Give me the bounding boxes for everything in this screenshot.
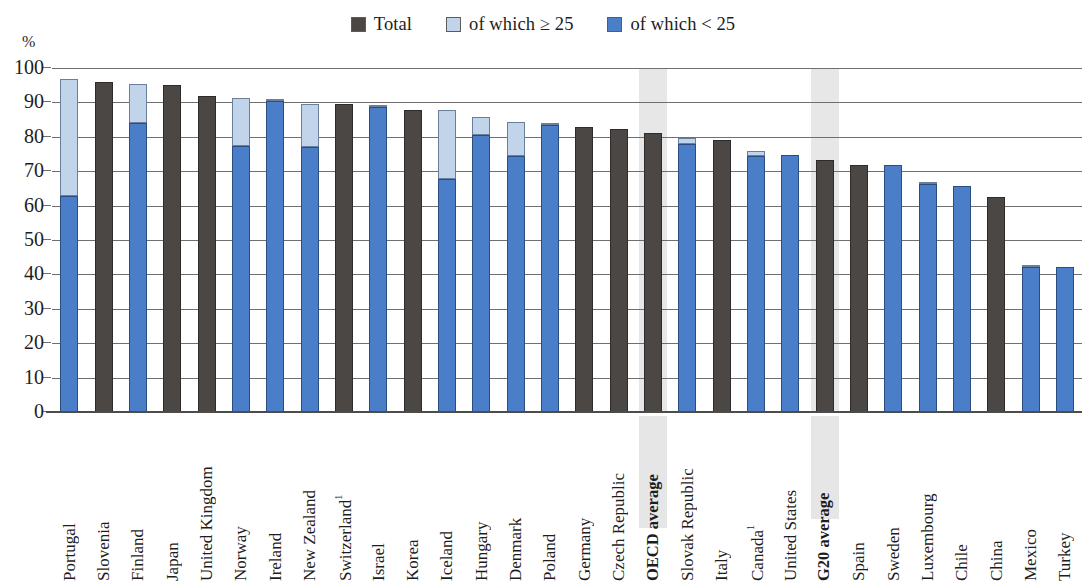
bar[interactable]: [610, 68, 628, 412]
bar[interactable]: [369, 68, 387, 412]
bar-segment-of-which-ge-25[interactable]: [678, 138, 696, 144]
bar[interactable]: [1022, 68, 1040, 412]
bar-segment-of-which-lt-25[interactable]: [129, 123, 147, 412]
x-axis-label-slot[interactable]: United States: [773, 416, 807, 584]
x-axis-label-slot[interactable]: Turkey: [1048, 416, 1082, 584]
bar-segment-total[interactable]: [713, 140, 731, 412]
bar-segment-of-which-lt-25[interactable]: [953, 186, 971, 412]
bar-segment-total[interactable]: [987, 197, 1005, 412]
x-axis-label-slot[interactable]: Japan: [155, 416, 189, 584]
legend-item-of-which-ge-25[interactable]: of which ≥ 25: [446, 14, 573, 35]
bar[interactable]: [404, 68, 422, 412]
bar-segment-of-which-ge-25[interactable]: [472, 117, 490, 136]
bar[interactable]: [919, 68, 937, 412]
bar-segment-of-which-lt-25[interactable]: [60, 196, 78, 412]
bar[interactable]: [1056, 68, 1074, 412]
bar[interactable]: [129, 68, 147, 412]
bar-segment-of-which-lt-25[interactable]: [301, 147, 319, 412]
x-axis-label-slot[interactable]: Slovenia: [86, 416, 120, 584]
x-axis-label-slot[interactable]: Slovak Republic: [670, 416, 704, 584]
bar-segment-of-which-ge-25[interactable]: [60, 79, 78, 196]
bar[interactable]: [850, 68, 868, 412]
bar-segment-of-which-lt-25[interactable]: [438, 179, 456, 412]
x-axis-label-slot[interactable]: Luxembourg: [910, 416, 944, 584]
bar[interactable]: [541, 68, 559, 412]
x-axis-label-slot[interactable]: Italy: [704, 416, 738, 584]
bar-segment-of-which-ge-25[interactable]: [507, 122, 525, 156]
bar-segment-total[interactable]: [198, 96, 216, 412]
bar-segment-total[interactable]: [163, 85, 181, 412]
bar-segment-of-which-lt-25[interactable]: [747, 156, 765, 412]
legend-item-total[interactable]: Total: [351, 14, 412, 35]
x-axis-label-slot[interactable]: Iceland: [430, 416, 464, 584]
bar[interactable]: [747, 68, 765, 412]
bar-segment-of-which-lt-25[interactable]: [678, 144, 696, 412]
x-axis-label-slot[interactable]: China: [979, 416, 1013, 584]
bar[interactable]: [266, 68, 284, 412]
bar-segment-of-which-ge-25[interactable]: [232, 98, 250, 146]
bar[interactable]: [678, 68, 696, 412]
x-axis-label-slot[interactable]: OECD average: [636, 416, 670, 584]
bar-segment-total[interactable]: [575, 127, 593, 412]
bar[interactable]: [301, 68, 319, 412]
x-axis-label-slot[interactable]: Canada1: [739, 416, 773, 584]
x-axis-label-slot[interactable]: Czech Republic: [601, 416, 635, 584]
x-axis-label-slot[interactable]: Portugal: [52, 416, 86, 584]
bar[interactable]: [335, 68, 353, 412]
bar[interactable]: [884, 68, 902, 412]
bar[interactable]: [507, 68, 525, 412]
x-axis-label-slot[interactable]: Denmark: [498, 416, 532, 584]
bar[interactable]: [644, 68, 662, 412]
x-axis-label-slot[interactable]: Spain: [842, 416, 876, 584]
x-axis-label-slot[interactable]: Switzerland1: [327, 416, 361, 584]
x-axis-label-slot[interactable]: Israel: [361, 416, 395, 584]
x-axis-label-slot[interactable]: Norway: [224, 416, 258, 584]
bar[interactable]: [575, 68, 593, 412]
x-axis-label-slot[interactable]: Poland: [533, 416, 567, 584]
bar-segment-of-which-lt-25[interactable]: [507, 156, 525, 412]
bar-segment-of-which-ge-25[interactable]: [541, 123, 559, 125]
x-axis-label-slot[interactable]: Finland: [121, 416, 155, 584]
bar-segment-of-which-lt-25[interactable]: [1022, 267, 1040, 413]
bar-segment-of-which-ge-25[interactable]: [369, 105, 387, 107]
bar-segment-of-which-ge-25[interactable]: [438, 110, 456, 179]
bar-segment-total[interactable]: [610, 129, 628, 412]
bar-segment-of-which-ge-25[interactable]: [919, 182, 937, 184]
bar[interactable]: [953, 68, 971, 412]
bar-segment-of-which-lt-25[interactable]: [472, 135, 490, 412]
bar-segment-of-which-ge-25[interactable]: [129, 84, 147, 123]
x-axis-label-slot[interactable]: Germany: [567, 416, 601, 584]
bar-segment-total[interactable]: [850, 165, 868, 412]
bar-segment-of-which-ge-25[interactable]: [747, 151, 765, 157]
x-axis-label-slot[interactable]: Mexico: [1013, 416, 1047, 584]
bar[interactable]: [472, 68, 490, 412]
bar-segment-of-which-lt-25[interactable]: [919, 184, 937, 412]
bar[interactable]: [781, 68, 799, 412]
bar[interactable]: [987, 68, 1005, 412]
bar-segment-of-which-lt-25[interactable]: [369, 107, 387, 412]
bar-segment-of-which-lt-25[interactable]: [884, 165, 902, 412]
bar-segment-of-which-ge-25[interactable]: [1022, 265, 1040, 267]
bar-segment-total[interactable]: [816, 160, 834, 412]
x-axis-label-slot[interactable]: New Zealand: [292, 416, 326, 584]
bar-segment-total[interactable]: [335, 104, 353, 412]
bar[interactable]: [163, 68, 181, 412]
bar-segment-of-which-lt-25[interactable]: [232, 146, 250, 412]
bar[interactable]: [198, 68, 216, 412]
x-axis-label-slot[interactable]: Chile: [945, 416, 979, 584]
x-axis-label-slot[interactable]: Hungary: [464, 416, 498, 584]
bar-segment-of-which-lt-25[interactable]: [1056, 267, 1074, 413]
bar[interactable]: [60, 68, 78, 412]
bar-segment-of-which-ge-25[interactable]: [301, 104, 319, 148]
bar-segment-of-which-lt-25[interactable]: [781, 155, 799, 412]
bar-segment-total[interactable]: [404, 110, 422, 412]
bar[interactable]: [713, 68, 731, 412]
bar-segment-of-which-lt-25[interactable]: [266, 101, 284, 412]
bar-segment-of-which-ge-25[interactable]: [266, 99, 284, 101]
bar[interactable]: [95, 68, 113, 412]
bar-segment-total[interactable]: [644, 133, 662, 412]
x-axis-label-slot[interactable]: Ireland: [258, 416, 292, 584]
bar-segment-of-which-lt-25[interactable]: [541, 125, 559, 412]
x-axis-label-slot[interactable]: G20 average: [807, 416, 841, 584]
legend-item-of-which-lt-25[interactable]: of which < 25: [607, 14, 735, 35]
